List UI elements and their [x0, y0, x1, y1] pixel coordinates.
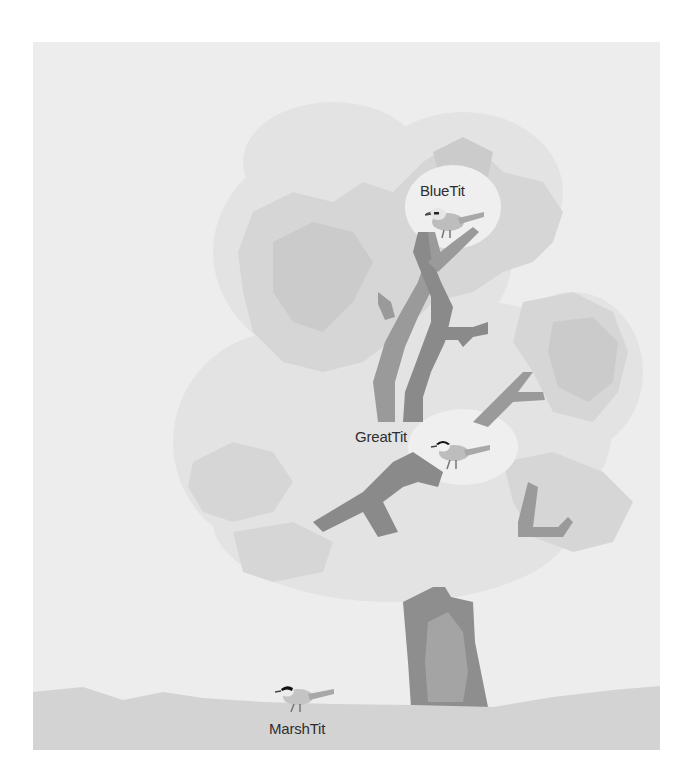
ground	[33, 686, 660, 750]
bluetit-bird-icon	[424, 204, 488, 244]
illustration-panel: BlueTit GreatTit MarshTit	[33, 42, 660, 750]
greattit-label: GreatTit	[355, 428, 407, 445]
bluetit-label: BlueTit	[420, 182, 465, 199]
trunk	[403, 587, 488, 707]
greattit-bird-icon	[430, 437, 494, 473]
tree-scene	[33, 42, 660, 750]
marshtit-label: MarshTit	[269, 720, 325, 737]
marshtit-bird-icon	[274, 682, 338, 716]
